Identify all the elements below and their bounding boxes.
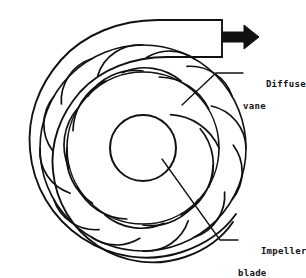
impeller-blade-label-line2: blade — [238, 268, 306, 278]
impeller-hub-circle — [110, 115, 176, 181]
diffuser-vane-label-line2: vane — [243, 101, 306, 112]
impeller-blade-label-line1: Impeller — [261, 246, 306, 256]
figure-root: Diffuser vane Impeller blade — [0, 0, 306, 278]
impeller-blade-label: Impeller blade — [238, 235, 306, 278]
diffuser-vane-label: Diffuser vane — [243, 68, 306, 134]
diffuser-vane-label-line1: Diffuser — [266, 79, 306, 89]
